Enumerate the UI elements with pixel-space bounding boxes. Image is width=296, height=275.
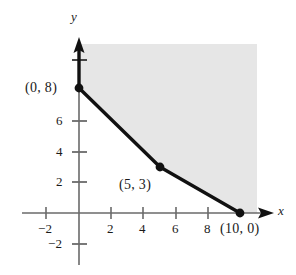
data-point-5-3 xyxy=(156,163,165,172)
x-tick-label-6: 6 xyxy=(172,222,179,235)
shaded-feasible-region xyxy=(79,44,257,213)
y-axis-label: y xyxy=(71,10,77,23)
annotation-point-10-0: (10, 0) xyxy=(220,222,259,236)
y-tick-label-6: 6 xyxy=(56,114,63,127)
y-tick-label--2: −2 xyxy=(48,237,62,250)
data-point-10-0 xyxy=(236,209,245,218)
x-tick-label-4: 4 xyxy=(139,222,146,235)
graph-figure: y x −2 2 4 6 8 6 4 2 −2 (0, 8) (5, 3) (1… xyxy=(0,0,296,275)
x-axis-label: x xyxy=(278,204,284,217)
y-tick-label-2: 2 xyxy=(56,175,63,188)
y-tick-label-4: 4 xyxy=(56,145,63,158)
x-tick-label-8: 8 xyxy=(204,222,211,235)
data-point-0-8 xyxy=(75,84,84,93)
x-tick-label--2: −2 xyxy=(38,222,52,235)
annotation-point-0-8: (0, 8) xyxy=(25,81,57,95)
annotation-point-5-3: (5, 3) xyxy=(119,178,151,192)
x-tick-label-2: 2 xyxy=(107,222,114,235)
